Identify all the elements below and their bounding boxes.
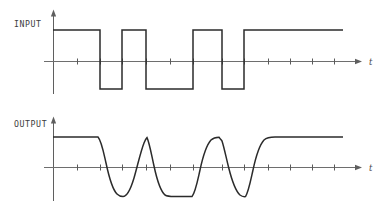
input-time-axis-label: t <box>369 57 373 67</box>
output-time-axis-label: t <box>369 163 373 173</box>
output-plot: OUTPUT t <box>14 117 373 202</box>
input-plot-label: INPUT <box>14 19 42 29</box>
input-time-axis-arrowhead <box>355 59 362 64</box>
output-waveform <box>53 137 343 197</box>
output-vertical-axis-arrowhead <box>51 117 56 124</box>
output-time-axis-arrowhead <box>355 165 362 170</box>
output-plot-label: OUTPUT <box>14 119 47 129</box>
input-waveform <box>53 30 343 89</box>
waveform-figure: INPUT t OUTPUT <box>0 0 389 219</box>
input-vertical-axis-arrowhead <box>51 10 56 17</box>
input-plot: INPUT t <box>14 10 373 95</box>
